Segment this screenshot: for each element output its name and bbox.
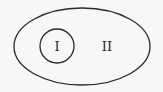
outer-set-ellipse: [14, 8, 150, 85]
inner-set-label: I: [54, 39, 59, 54]
venn-diagram: I II: [0, 0, 163, 92]
outer-set-label: II: [102, 39, 112, 54]
